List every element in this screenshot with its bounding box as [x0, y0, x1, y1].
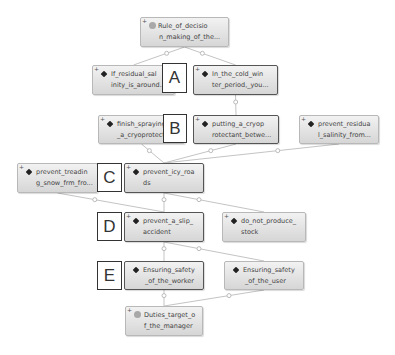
edge-putting-to-prevent_icy [164, 144, 236, 163]
node-label: prevent_treadin [36, 167, 88, 178]
node-label: stock [241, 227, 258, 238]
edge-finish_spraying-to-prevent_icy [142, 144, 165, 163]
expand-icon[interactable]: + [19, 163, 24, 170]
node-label: f_the_manager [144, 321, 193, 332]
node-ensuring-safety-of-the-user[interactable]: Ensuring_safety _of_the_user [224, 261, 304, 290]
circle-icon [149, 22, 156, 29]
node-putting-a-cryoprotectant[interactable]: + putting_a_cryop rotectant_betwe... [193, 115, 279, 144]
expand-icon[interactable]: + [142, 17, 147, 24]
node-in-the-cold-winter-period[interactable]: + In_the_cold_win ter_period,_you... [193, 65, 278, 95]
node-label: If_residual_sal [111, 69, 157, 80]
expand-icon[interactable]: + [100, 115, 105, 122]
diamond-icon [26, 169, 33, 176]
node-label: putting_a_cryop [212, 119, 264, 130]
marker-b: B [163, 114, 187, 143]
diamond-icon [133, 218, 140, 225]
edge-arrow-icon [93, 198, 97, 202]
node-prevent-residual-salinity[interactable]: + prevent_residua l_salinity_from... [299, 115, 379, 144]
edge-arrow-icon [165, 51, 169, 55]
edge-arrow-icon [162, 294, 166, 298]
diamond-icon [231, 218, 238, 225]
node-label: prevent_a_slip_ [143, 216, 193, 227]
node-label: do_not_produce_ [241, 216, 296, 227]
edge-prevent_slip-to-ensuring_user [164, 242, 264, 261]
marker-d: D [97, 212, 122, 241]
node-label: accident [143, 227, 171, 238]
node-duties-target-of-the-manager[interactable]: + Duties_target_o f_the_manager [125, 306, 203, 336]
node-ensuring-safety-of-the-worker[interactable]: Ensuring_safety _of_the_worker [124, 261, 204, 290]
expand-icon[interactable]: + [127, 306, 132, 313]
node-label: inity_is_around... [111, 80, 166, 91]
node-label: prevent_residua [318, 119, 370, 130]
node-label: ds [143, 178, 151, 189]
diamond-icon [133, 169, 140, 176]
edge-prevent_icy-to-do_not_produce [164, 193, 264, 212]
node-label: Ensuring_safety [243, 265, 295, 276]
node-label: ter_period,_you... [212, 80, 269, 91]
expand-icon[interactable]: + [126, 163, 131, 170]
edge-root-to-in_the_cold [185, 47, 236, 65]
edge-arrow-icon [197, 247, 201, 251]
diamond-icon [233, 267, 240, 274]
expand-icon[interactable]: + [195, 115, 200, 122]
node-label: Rule_of_decisio [158, 21, 208, 32]
node-prevent-icy-roads[interactable]: + prevent_icy_roa ds [124, 163, 204, 193]
marker-a: A [162, 63, 187, 93]
expand-icon[interactable]: + [126, 212, 131, 219]
circle-icon [134, 311, 141, 318]
edge-ensuring_user-to-duties [164, 290, 264, 306]
edge-arrow-icon [234, 100, 238, 104]
node-rule-of-decision-making[interactable]: + Rule_of_decisio n_making_of_the... [140, 17, 229, 47]
node-label: _of_the_worker [145, 276, 194, 287]
node-prevent-treading-snow[interactable]: + prevent_treadin g_snow_frm_fro... [17, 163, 98, 193]
node-label: prevent_icy_roa [143, 167, 194, 178]
expand-icon[interactable]: + [94, 65, 99, 72]
node-do-not-produce-stock[interactable]: + do_not_produce_ stock [222, 212, 306, 242]
node-label: g_snow_frm_fro... [36, 178, 93, 189]
node-label: l_salinity_from... [318, 130, 371, 141]
node-label: Duties_target_o [144, 310, 195, 321]
node-label: Ensuring_safety [143, 265, 195, 276]
diamond-icon [133, 267, 140, 274]
node-label: finish_spraying [117, 119, 166, 130]
marker-c: C [97, 163, 122, 192]
edge-arrow-icon [276, 149, 280, 153]
diamond-icon [107, 121, 114, 128]
node-prevent-a-slip-accident[interactable]: + prevent_a_slip_ accident [124, 212, 204, 242]
edge-arrow-icon [227, 294, 231, 298]
edge-arrow-icon [162, 198, 166, 202]
expand-icon[interactable]: + [195, 65, 200, 72]
diamond-icon [308, 121, 315, 128]
node-label: _of_the_user [245, 276, 286, 287]
marker-e: E [97, 261, 122, 290]
node-label: In_the_cold_win [212, 69, 263, 80]
diamond-icon [202, 121, 209, 128]
edge-arrow-icon [197, 198, 201, 202]
edge-prevent_residual-to-prevent_icy [164, 144, 339, 163]
expand-icon[interactable]: + [224, 212, 229, 219]
edge-arrow-icon [147, 149, 151, 153]
edge-arrow-icon [209, 149, 213, 153]
edge-arrow-icon [162, 247, 166, 251]
edge-in_the_cold-to-putting [236, 95, 237, 115]
edge-arrow-icon [200, 51, 204, 55]
node-label: rotectant_betwe... [212, 130, 271, 141]
edge-prevent_treading-to-prevent_slip [58, 193, 165, 212]
node-label: n_making_of_the... [159, 32, 220, 43]
diamond-icon [101, 71, 108, 78]
diamond-icon [202, 71, 209, 78]
expand-icon[interactable]: + [301, 115, 306, 122]
